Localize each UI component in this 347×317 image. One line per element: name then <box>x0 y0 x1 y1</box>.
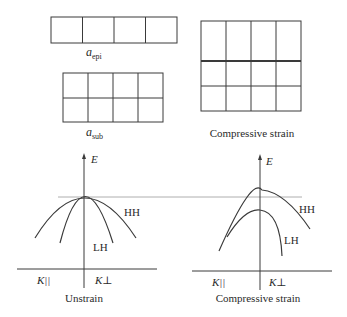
k-parallel-label: K|| <box>36 274 50 286</box>
hh-label: HH <box>124 206 140 218</box>
epi-lattice-label: aepi <box>86 45 103 61</box>
strained-lattice <box>201 21 301 111</box>
compressive-band-diagram: E HH LH K|| K⊥ Compressive strain <box>192 154 332 304</box>
lh-label: LH <box>93 241 108 253</box>
compressive-caption: Compressive strain <box>216 292 301 304</box>
k-parallel-label: K|| <box>211 276 225 288</box>
energy-axis-label: E <box>265 155 273 167</box>
k-perpendicular-label: K⊥ <box>94 274 113 286</box>
substrate-lattice <box>63 73 163 122</box>
lh-curve <box>60 197 113 244</box>
substrate-lattice-label: asub <box>86 125 103 141</box>
hh-label: HH <box>299 203 315 215</box>
strain-diagram: aepi asub Compressive strain E HH LH K||… <box>0 0 347 317</box>
energy-axis-label: E <box>90 153 98 165</box>
unstrain-caption: Unstrain <box>65 292 103 304</box>
lh-label: LH <box>284 234 299 246</box>
hh-curve <box>35 198 136 238</box>
k-perpendicular-label: K⊥ <box>268 276 287 288</box>
epi-lattice <box>51 17 177 43</box>
arrow-up-icon <box>82 153 86 159</box>
unstrain-band-diagram: E HH LH K|| K⊥ Unstrain <box>17 153 157 304</box>
arrow-up-icon <box>258 154 262 160</box>
strained-lattice-caption: Compressive strain <box>210 127 295 139</box>
